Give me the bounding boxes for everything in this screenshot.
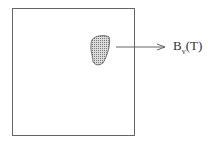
hatched-blob — [91, 36, 110, 65]
radiance-label: Bv(T) — [173, 38, 202, 56]
label-suffix: (T) — [186, 38, 203, 53]
diagram-canvas — [0, 0, 208, 144]
enclosure-box — [13, 9, 135, 136]
label-main: B — [173, 38, 182, 53]
